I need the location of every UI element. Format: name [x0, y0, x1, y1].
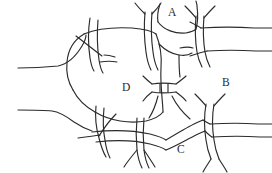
figure-canvas: A B C D — [0, 0, 272, 173]
septum-upper-bar — [152, 83, 176, 84]
septum-lower-left-arm — [143, 92, 152, 101]
cell-a-inner-lower-curve — [159, 44, 192, 55]
cell-d-outline-bottom — [95, 112, 163, 122]
left-strand-lower-inner — [78, 135, 100, 138]
septum-lower-right-arm — [176, 92, 186, 101]
wall-bottom-center-splay-left — [124, 150, 137, 167]
right-strand-upper-outer — [201, 27, 272, 28]
divider-from-septum-left — [149, 96, 158, 118]
septum-lower-bar — [152, 92, 176, 93]
cell-a-inner-hook — [180, 47, 193, 48]
wall-right-upper-splay-up-left — [185, 6, 196, 18]
wall-right-lower-splay-up-left — [195, 94, 206, 106]
wall-upper-left-vertical-b — [97, 20, 103, 73]
line-drawing — [0, 0, 272, 173]
cell-d-outline-lower-left — [73, 90, 95, 112]
wall-upper-left-short-hook — [104, 55, 115, 57]
cell-a-inner-descender — [179, 55, 180, 77]
wall-right-lower-splay-up-right — [214, 94, 225, 106]
wall-right-upper-vertical-b — [203, 16, 210, 67]
cell-d-outline-top — [84, 28, 156, 34]
left-strand-lower-outer — [18, 110, 92, 131]
divider-from-septum-right — [172, 96, 190, 119]
cell-d-outline-upper-left — [67, 34, 84, 90]
wall-right-lower-vertical-b — [213, 104, 220, 159]
wall-lower-left-vertical-b — [103, 108, 110, 158]
wall-right-upper-splay-up-right — [204, 6, 215, 18]
wall-bottom-center-vertical-a — [136, 118, 142, 168]
wall-right-upper-vertical-a — [195, 16, 202, 67]
right-strand-lower-outer-b — [212, 136, 272, 137]
region-label-d: D — [122, 82, 131, 94]
region-label-c: C — [177, 144, 185, 156]
wall-top-center-vertical-a — [144, 12, 151, 70]
right-strand-lower-connector-b — [205, 131, 212, 137]
septum-upper-left-arm — [143, 76, 152, 84]
bottom-wall-strand-upper — [92, 131, 166, 140]
right-strand-mid-outer — [207, 50, 272, 51]
region-label-a: A — [168, 7, 177, 19]
right-strand-mid-connector — [190, 51, 207, 56]
wall-upper-left-lower-hook — [100, 61, 117, 62]
wall-top-center-splay-left — [135, 3, 145, 14]
cell-c-outline-upper-left-join — [166, 131, 205, 150]
wall-top-center-vertical-b — [151, 12, 158, 70]
right-strand-lower-outer-a — [210, 123, 272, 124]
wall-right-lower-splay-down-right — [219, 159, 227, 172]
wall-right-lower-splay-down-left — [203, 159, 211, 172]
cell-c-outline-upper-right — [166, 120, 203, 140]
region-label-b: B — [222, 77, 230, 89]
wall-upper-left-vertical-a — [89, 18, 95, 71]
septum-upper-right-arm — [176, 76, 186, 84]
cell-a-outline-bottom — [158, 22, 196, 33]
